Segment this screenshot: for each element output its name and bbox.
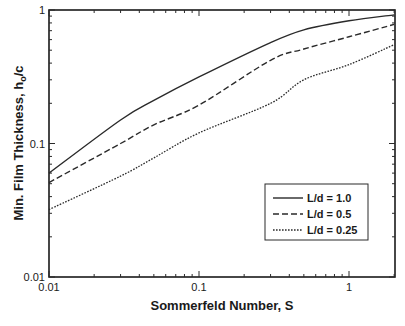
series-lines xyxy=(49,15,394,210)
y-axis-ticks: 0.010.11 xyxy=(24,4,395,283)
x-axis-ticks: 0.010.11 xyxy=(38,10,394,293)
legend-label: L/d = 1.0 xyxy=(307,192,351,204)
y-tick-label: 0.1 xyxy=(30,138,45,150)
series-line-dashed xyxy=(49,24,394,182)
x-tick-label: 1 xyxy=(346,281,352,293)
x-axis-title: Sommerfeld Number, S xyxy=(150,298,293,313)
legend: L/d = 1.0L/d = 0.5L/d = 0.25 xyxy=(265,184,368,240)
chart-container: 0.010.11 0.010.11 Sommerfeld Number, S M… xyxy=(0,0,405,326)
y-axis-title-tail: /c xyxy=(11,65,26,76)
legend-label: L/d = 0.5 xyxy=(307,208,351,220)
y-axis-title: Min. Film Thickness, ho/c xyxy=(11,65,28,220)
film-thickness-chart: 0.010.11 0.010.11 Sommerfeld Number, S M… xyxy=(0,0,405,326)
legend-label: L/d = 0.25 xyxy=(307,224,357,236)
y-axis-title-main: Min. Film Thickness, h xyxy=(11,82,26,221)
y-tick-label: 0.01 xyxy=(24,271,45,283)
x-tick-label: 0.1 xyxy=(191,281,206,293)
y-tick-label: 1 xyxy=(39,4,45,16)
